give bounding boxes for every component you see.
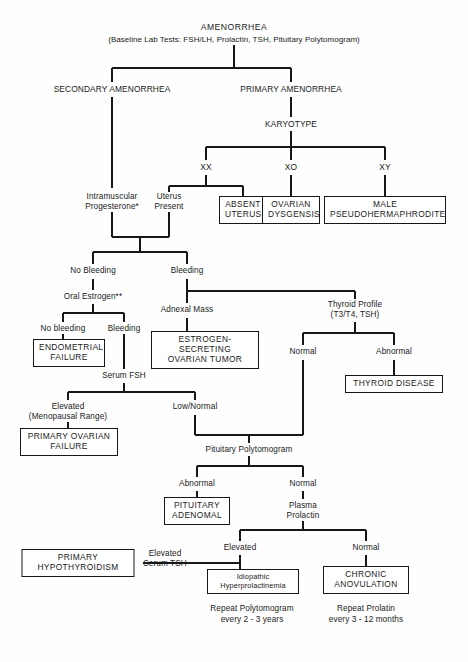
node-no-bleeding-estrogen: No bleeding	[32, 324, 94, 334]
node-karyotype-xx: XX	[191, 163, 221, 173]
node-root-tests: (Baseline Lab Tests: FSH/LH, Prolactin, …	[34, 35, 434, 44]
box-endometrial-failure: ENDOMETRIAL FAILURE	[33, 339, 105, 367]
node-elevated-serum-tsh: Elevated Serum TSH	[140, 549, 190, 568]
node-prolactin-elevated: Elevated	[214, 543, 266, 553]
node-serum-fsh: Serum FSH	[95, 371, 153, 381]
node-karyotype-xo: XO	[276, 163, 306, 173]
node-thyroid-profile: Thyroid Profile (T3/T4, TSH)	[315, 300, 395, 319]
node-karyotype-xy: XY	[370, 163, 400, 173]
node-no-bleeding-progesterone: No Bleeding	[60, 266, 126, 276]
box-primary-ovarian-failure: PRIMARY OVARIAN FAILURE	[20, 428, 118, 456]
box-primary-hypothyroidism: PRIMARY HYPOTHYROIDISM	[22, 549, 135, 577]
node-bleeding-progesterone: Bleeding	[159, 266, 215, 276]
node-primary-amenorrhea: PRIMARY AMENORRHEA	[216, 85, 366, 95]
node-secondary-amenorrhea: SECONDARY AMENORRHEA	[32, 85, 192, 95]
flowchart-canvas: AMENORRHEA (Baseline Lab Tests: FSH/LH, …	[0, 0, 468, 662]
node-fsh-elevated: Elevated (Menopausal Range)	[20, 402, 116, 421]
node-root-title: AMENORRHEA	[201, 22, 268, 32]
node-pituitary-normal: Normal	[280, 479, 326, 489]
box-absent-uterus: ABSENT UTERUS	[219, 196, 267, 224]
node-intramuscular-progesterone: Intramuscular Progesterone*	[72, 192, 152, 211]
node-thyroid-abnormal: Abnormal	[368, 347, 420, 357]
node-adnexal-mass: Adnexal Mass	[151, 305, 223, 315]
node-thyroid-normal: Normal	[280, 347, 326, 357]
node-bleeding-estrogen: Bleeding	[99, 324, 149, 334]
box-male-pseudohermaphrodite: MALE PSEUDOHERMAPHRODITE	[324, 196, 446, 224]
box-pituitary-adenomal: PITUITARY ADENOMAL	[164, 497, 230, 525]
node-pituitary-abnormal: Abnormal	[171, 479, 223, 489]
node-plasma-prolactin: Plasma Prolactin	[275, 501, 331, 520]
node-fsh-low-normal: Low/Normal	[164, 402, 226, 412]
node-prolactin-normal: Normal	[343, 543, 389, 553]
box-estrogen-secreting-ovarian-tumor: ESTROGEN-SECRETING OVARIAN TUMOR	[151, 331, 259, 369]
box-thyroid-disease: THYROID DISEASE	[345, 375, 443, 393]
box-ovarian-dysgensis: OVARIAN DYSGENSIS	[262, 196, 320, 224]
box-chronic-anovulation: CHRONIC ANOVULATION	[323, 566, 409, 594]
node-oral-estrogen: Oral Estrogen**	[52, 292, 134, 302]
node-pituitary-polytomogram: Pituitary Polytomogram	[189, 445, 309, 455]
note-repeat-polytomogram: Repeat Polytomogram every 2 - 3 years	[200, 604, 304, 625]
note-repeat-prolactin: Repeat Prolatin every 3 - 12 months	[314, 604, 418, 625]
node-karyotype: KARYOTYPE	[246, 120, 336, 130]
box-idiopathic-hyperprolactinemia: Idiopathic Hyperprolactinemia	[207, 569, 299, 594]
